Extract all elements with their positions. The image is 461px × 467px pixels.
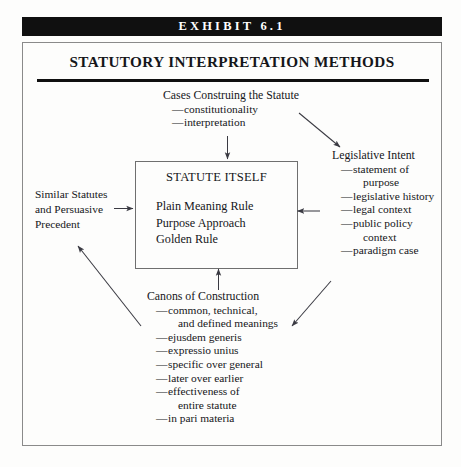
statute-rule-item: Plain Meaning Rule	[156, 198, 254, 215]
list-item: —common, technical,	[156, 304, 278, 318]
exhibit-title: STATUTORY INTERPRETATION METHODS	[23, 53, 441, 71]
exhibit-banner-label: EXHIBIT 6.1	[178, 19, 285, 34]
list-item-label: interpretation	[184, 116, 245, 128]
similar-statutes-line-3: Precedent	[35, 217, 107, 232]
list-item-label: entire statute	[178, 399, 237, 411]
exhibit-banner: EXHIBIT 6.1	[22, 17, 442, 36]
list-item-label: context	[363, 231, 397, 243]
list-item-label: expressio unius	[168, 344, 239, 356]
list-item: —specific over general	[156, 358, 278, 372]
list-item-label: later over earlier	[168, 372, 243, 384]
list-item: —legislative history	[341, 190, 434, 204]
dash-marker: —	[156, 372, 167, 386]
block-legislative-intent-heading: Legislative Intent	[332, 149, 434, 163]
statute-rule-item: Purpose Approach	[156, 215, 254, 232]
list-item: —statement of	[341, 163, 434, 177]
list-item: —later over earlier	[156, 372, 278, 386]
list-item-continuation: and defined meanings	[156, 317, 278, 331]
statute-itself-rules: Plain Meaning Rule Purpose Approach Gold…	[156, 198, 254, 248]
list-item: —public policy	[341, 217, 434, 231]
dash-marker: —	[156, 344, 167, 358]
list-item-label: in pari materia	[168, 412, 234, 424]
dash-marker: —	[156, 331, 167, 345]
list-item: —ejusdem generis	[156, 331, 278, 345]
dash-marker: —	[341, 190, 352, 204]
list-item-label: statement of	[353, 163, 409, 175]
list-item-label: public policy	[353, 217, 413, 229]
list-item-label: paradigm case	[353, 244, 418, 256]
dash-marker: —	[341, 217, 352, 231]
list-item: —paradigm case	[341, 244, 434, 258]
similar-statutes-line-1: Similar Statutes	[35, 187, 107, 202]
list-item-continuation: purpose	[341, 176, 434, 190]
list-item: —expressio unius	[156, 344, 278, 358]
list-item: —in pari materia	[156, 412, 278, 426]
block-canons-of-construction: Canons of Construction —common, technica…	[147, 290, 278, 426]
similar-statutes-line-2: and Persuasive	[35, 202, 107, 217]
dash-marker: —	[341, 163, 352, 177]
list-item-continuation: context	[341, 231, 434, 245]
exhibit-frame: STATUTORY INTERPRETATION METHODS Cases C…	[22, 42, 442, 446]
dash-marker: —	[172, 116, 183, 130]
dash-marker: —	[341, 244, 352, 258]
block-similar-statutes-and-persuasive-precedent: Similar Statutes and Persuasive Preceden…	[35, 187, 107, 232]
block-cases-heading: Cases Construing the Statute	[163, 89, 299, 103]
statute-itself-heading: STATUTE ITSELF	[136, 170, 297, 185]
block-cases-list: —constitutionality —interpretation	[163, 103, 299, 130]
list-item: —legal context	[341, 203, 434, 217]
list-item: —constitutionality	[172, 103, 299, 117]
statute-rule-item: Golden Rule	[156, 231, 254, 248]
dash-marker: —	[156, 385, 167, 399]
statute-itself-box: STATUTE ITSELF Plain Meaning Rule Purpos…	[135, 161, 298, 269]
list-item-continuation: entire statute	[156, 399, 278, 413]
list-item-label: specific over general	[168, 358, 263, 370]
list-item: —effectiveness of	[156, 385, 278, 399]
list-item-label: legal context	[353, 203, 412, 215]
block-legislative-intent-list: —statement of purpose —legislative histo…	[332, 163, 434, 258]
list-item-label: ejusdem generis	[168, 331, 242, 343]
title-divider	[37, 79, 429, 82]
list-item-label: constitutionality	[184, 103, 258, 115]
dash-marker: —	[172, 103, 183, 117]
block-canons-heading: Canons of Construction	[147, 290, 278, 304]
list-item-label: legislative history	[353, 190, 434, 202]
list-item-label: and defined meanings	[178, 317, 278, 329]
block-cases-construing-the-statute: Cases Construing the Statute —constituti…	[163, 89, 299, 130]
exhibit-page: EXHIBIT 6.1 STATUTORY INTERPRETATION MET…	[0, 0, 461, 467]
list-item-label: purpose	[363, 176, 399, 188]
block-canons-list: —common, technical, and defined meanings…	[147, 304, 278, 426]
dash-marker: —	[156, 304, 167, 318]
dash-marker: —	[156, 358, 167, 372]
list-item: —interpretation	[172, 116, 299, 130]
list-item-label: effectiveness of	[168, 385, 240, 397]
block-legislative-intent: Legislative Intent —statement of purpose…	[332, 149, 434, 258]
dash-marker: —	[341, 203, 352, 217]
list-item-label: common, technical,	[168, 304, 258, 316]
dash-marker: —	[156, 412, 167, 426]
